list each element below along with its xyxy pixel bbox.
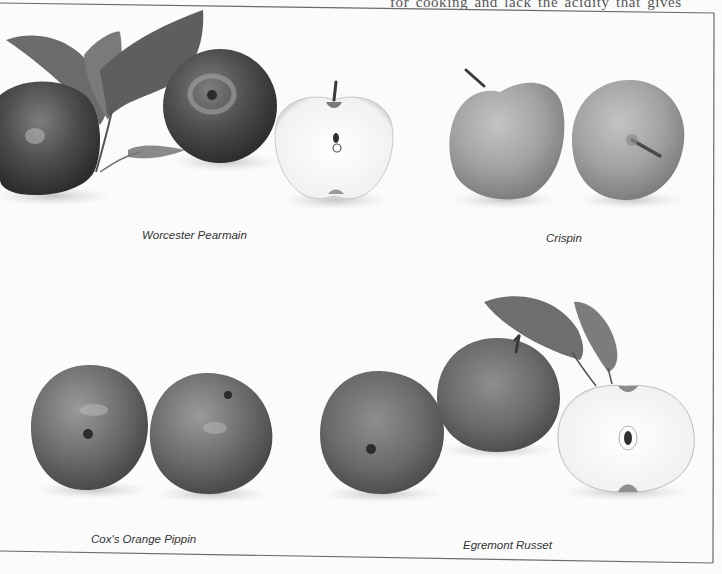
frame-top-line xyxy=(0,3,714,13)
worcester-pearmain-group xyxy=(0,10,393,210)
frame-right-line xyxy=(713,13,714,563)
caption-coxs-orange-pippin: Cox's Orange Pippin xyxy=(91,533,196,545)
coxs-orange-pippin-group xyxy=(31,365,272,503)
caption-egremont-russet: Egremont Russet xyxy=(463,539,552,551)
caption-crispin: Crispin xyxy=(546,232,582,244)
frame-bottom-line xyxy=(0,551,713,563)
apple-varieties-plate xyxy=(0,0,722,574)
crispin-group xyxy=(449,70,685,209)
caption-worcester-pearmain: Worcester Pearmain xyxy=(142,229,247,241)
egremont-russet-group xyxy=(320,296,694,503)
